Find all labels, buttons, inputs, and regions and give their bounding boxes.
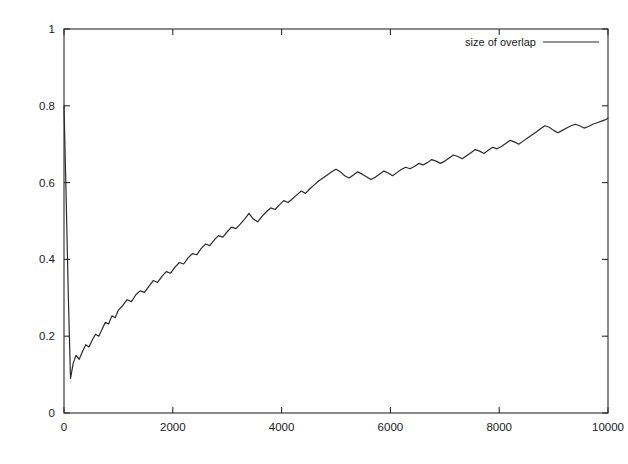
- legend-label: size of overlap: [465, 36, 536, 48]
- y-tick-label: 0: [49, 407, 55, 419]
- line-chart: 0200040006000800010000 00.20.40.60.81 si…: [0, 0, 628, 464]
- y-tick-label: 0.2: [39, 330, 55, 342]
- chart-container: 0200040006000800010000 00.20.40.60.81 si…: [0, 0, 628, 464]
- x-tick-label: 6000: [378, 421, 404, 433]
- y-tick-label: 1: [49, 23, 55, 35]
- x-tick-label: 0: [61, 421, 67, 433]
- x-tick-label: 2000: [160, 421, 186, 433]
- y-tick-label: 0.4: [39, 253, 56, 265]
- y-tick-label: 0.8: [39, 100, 55, 112]
- y-tick-label: 0.6: [39, 177, 55, 189]
- x-tick-label: 4000: [269, 421, 295, 433]
- x-tick-label: 10000: [592, 421, 624, 433]
- chart-background: [0, 0, 628, 464]
- x-tick-label: 8000: [486, 421, 512, 433]
